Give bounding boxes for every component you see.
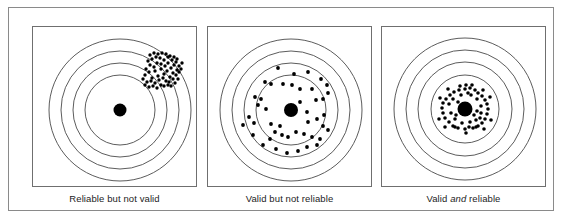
shot-mark — [298, 100, 302, 104]
target-panel-valid-and-reliable: Valid and reliable — [381, 26, 546, 220]
shot-mark — [315, 117, 319, 121]
shot-mark — [171, 77, 174, 80]
bullseye — [458, 102, 473, 117]
shot-mark — [268, 137, 272, 141]
shot-mark — [157, 78, 160, 81]
shot-mark — [306, 70, 310, 74]
shot-mark — [325, 83, 329, 87]
shot-mark — [453, 125, 457, 129]
shot-mark — [241, 123, 245, 127]
shot-mark — [285, 151, 289, 155]
shot-mark — [144, 67, 147, 70]
shot-mark — [177, 70, 180, 73]
shot-mark — [259, 97, 263, 101]
shot-mark — [449, 111, 453, 115]
target-panel-valid-not-reliable: Valid but not reliable — [207, 26, 372, 220]
shot-mark — [310, 87, 314, 91]
shot-mark — [481, 88, 485, 92]
target-box — [381, 26, 546, 187]
shot-mark — [164, 79, 167, 82]
target-panel-reliable-not-valid: Reliable but not valid — [32, 26, 197, 220]
shot-mark — [145, 80, 148, 83]
shot-mark — [482, 127, 486, 131]
shot-mark — [437, 117, 441, 121]
shot-mark — [177, 64, 180, 67]
shot-mark — [276, 66, 280, 70]
shot-mark — [444, 97, 448, 101]
shot-mark — [170, 58, 173, 61]
shot-mark — [488, 95, 492, 99]
shot-mark — [167, 80, 170, 83]
caption-prefix: Valid but not reliable — [246, 193, 334, 204]
shot-mark — [310, 135, 314, 139]
shot-mark — [169, 66, 172, 69]
shot-mark — [454, 113, 458, 117]
shot-mark — [166, 61, 169, 64]
shot-mark — [252, 121, 256, 125]
shot-mark — [156, 52, 159, 55]
shot-mark — [158, 56, 161, 59]
shot-mark — [281, 82, 285, 86]
bullseye — [284, 103, 298, 117]
panel-caption: Valid but not reliable — [207, 192, 372, 205]
shot-mark — [475, 97, 479, 101]
shot-mark — [280, 133, 284, 137]
shot-mark — [164, 52, 167, 55]
caption-prefix: Reliable but not valid — [69, 193, 159, 204]
shot-mark — [152, 65, 155, 68]
shot-mark — [457, 88, 461, 92]
shot-mark — [326, 128, 330, 132]
shot-mark — [166, 83, 169, 86]
shot-mark — [168, 54, 171, 57]
shot-mark — [322, 113, 326, 117]
shot-mark — [171, 71, 174, 74]
shot-mark — [476, 91, 480, 95]
shot-mark — [456, 100, 460, 104]
shot-mark — [162, 84, 165, 87]
caption-emphasis: and — [450, 193, 466, 204]
shot-mark — [150, 76, 153, 79]
reliability-validity-figure: Reliable but not valid Valid but not rel… — [0, 0, 563, 220]
shot-mark — [153, 81, 156, 84]
shot-mark — [162, 72, 165, 75]
shot-mark — [180, 61, 183, 64]
shot-mark — [155, 61, 158, 64]
shot-mark — [165, 69, 168, 72]
shot-mark — [148, 53, 151, 56]
shot-mark — [469, 93, 473, 97]
shot-mark — [290, 83, 294, 87]
shot-mark — [251, 133, 255, 137]
shot-mark — [483, 117, 487, 121]
shot-mark — [294, 130, 298, 134]
shot-mark — [314, 98, 318, 102]
shot-mark — [176, 77, 179, 80]
shot-mark — [143, 83, 146, 86]
shot-mark — [463, 87, 467, 91]
shot-mark — [452, 90, 456, 94]
shot-mark — [315, 143, 319, 147]
shot-mark — [478, 116, 482, 120]
shot-mark — [468, 86, 472, 90]
shot-mark — [149, 79, 152, 82]
shot-mark — [459, 93, 463, 97]
shot-mark — [306, 120, 310, 124]
shot-mark — [479, 104, 483, 108]
shot-mark — [152, 51, 155, 54]
shot-mark — [174, 60, 177, 63]
panel-caption: Reliable but not valid — [32, 192, 197, 205]
caption-prefix: Valid — [427, 193, 451, 204]
shot-mark — [253, 95, 257, 99]
shot-mark — [443, 116, 447, 120]
shot-mark — [485, 102, 489, 106]
figure-outer-frame: Reliable but not valid Valid but not rel… — [8, 7, 554, 211]
shot-mark — [159, 83, 162, 86]
shot-mark — [154, 55, 157, 58]
shot-mark — [146, 59, 149, 62]
shot-mark — [473, 88, 477, 92]
shot-mark — [468, 120, 472, 124]
shot-mark — [447, 102, 451, 106]
shot-mark — [269, 82, 273, 86]
shot-mark — [438, 96, 442, 100]
shot-mark — [179, 67, 182, 70]
shot-mark — [153, 69, 156, 72]
